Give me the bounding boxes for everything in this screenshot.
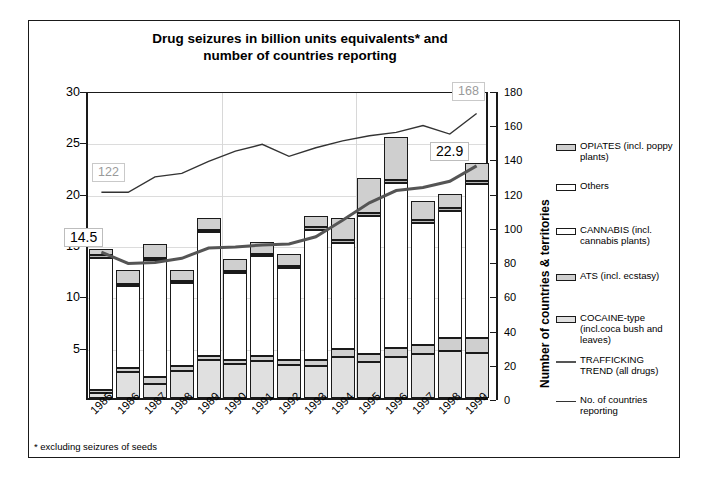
y-axis-right-tick bbox=[490, 332, 496, 333]
legend-swatch-bar-icon bbox=[556, 228, 576, 235]
legend-label: ATS (incl. ecstasy) bbox=[580, 270, 678, 281]
legend-swatch-line-icon bbox=[556, 361, 576, 363]
legend-swatch bbox=[556, 398, 576, 402]
y-axis-right-tick-label: 0 bbox=[504, 394, 510, 406]
y-axis-right-tick bbox=[490, 126, 496, 127]
y-axis-right-tick-label: 160 bbox=[504, 120, 522, 132]
legend-swatch-line-icon bbox=[556, 401, 576, 402]
y-axis-left-tick-label: 20 bbox=[46, 188, 80, 202]
annotation-countries-start: 122 bbox=[92, 163, 125, 182]
legend-label: Others bbox=[580, 180, 678, 191]
footnote: * excluding seizures of seeds bbox=[34, 441, 157, 452]
y-axis-right-tick bbox=[490, 366, 496, 367]
y-axis-left-tick bbox=[80, 349, 86, 350]
y-axis-right-tick bbox=[490, 195, 496, 196]
y-axis-right-tick-label: 100 bbox=[504, 223, 522, 235]
annotation-seizures-start: 14.5 bbox=[64, 228, 103, 247]
legend-swatch-bar-icon bbox=[556, 316, 576, 323]
y-axis-right-tick bbox=[490, 263, 496, 264]
legend-label: CANNABIS (incl. cannabis plants) bbox=[580, 224, 678, 246]
legend-swatch-bar-icon bbox=[556, 274, 576, 281]
legend-swatch bbox=[556, 228, 576, 235]
y-axis-right-tick-label: 140 bbox=[504, 154, 522, 166]
y-axis-left-tick-label: 30 bbox=[46, 85, 80, 99]
countries-reporting-line bbox=[101, 114, 476, 193]
legend-label: No. of countries reporting bbox=[580, 394, 678, 416]
chart-figure: Drug seizures in billion units equivalen… bbox=[0, 0, 708, 484]
y-axis-right-tick bbox=[490, 229, 496, 230]
legend-swatch bbox=[556, 184, 576, 191]
y-axis-right-title: Number of countries & territories bbox=[538, 199, 552, 388]
legend-swatch bbox=[556, 144, 576, 151]
legend-swatch bbox=[556, 316, 576, 323]
annotation-countries-end: 168 bbox=[452, 82, 485, 101]
y-axis-right-tick-label: 40 bbox=[504, 326, 516, 338]
y-axis-left-tick bbox=[80, 297, 86, 298]
y-axis-right-tick bbox=[490, 160, 496, 161]
legend-label: COCAINE-type (incl.coca bush and leaves) bbox=[580, 312, 678, 345]
title-line-2: number of countries reporting bbox=[203, 48, 397, 63]
y-axis-right-tick bbox=[490, 297, 496, 298]
legend-swatch-bar-icon bbox=[556, 184, 576, 191]
y-axis-left-tick bbox=[80, 195, 86, 196]
y-axis-right-tick bbox=[490, 400, 496, 401]
y-axis-right-tick-label: 180 bbox=[504, 86, 522, 98]
legend-swatch bbox=[556, 274, 576, 281]
y-axis-left-tick bbox=[80, 92, 86, 93]
y-axis-right-tick-label: 80 bbox=[504, 257, 516, 269]
title-line-1: Drug seizures in billion units equivalen… bbox=[152, 31, 448, 46]
y-axis-left-tick bbox=[80, 143, 86, 144]
y-axis-right-tick-label: 60 bbox=[504, 291, 516, 303]
y-axis-right-tick bbox=[490, 92, 496, 93]
y-axis-right-tick-label: 120 bbox=[504, 189, 522, 201]
legend-swatch bbox=[556, 358, 576, 363]
legend-swatch-bar-icon bbox=[556, 144, 576, 151]
trend-lines bbox=[88, 93, 490, 401]
y-axis-right-tick-label: 20 bbox=[504, 360, 516, 372]
annotation-seizures-end: 22.9 bbox=[430, 142, 469, 161]
page-title: Drug seizures in billion units equivalen… bbox=[90, 30, 510, 64]
plot-area bbox=[86, 92, 488, 400]
y-axis-right-line bbox=[496, 92, 498, 400]
trafficking-trend-line bbox=[101, 166, 476, 264]
y-axis-left-tick-label: 25 bbox=[46, 136, 80, 150]
legend-label: OPIATES (incl. poppy plants) bbox=[580, 140, 678, 162]
y-axis-left-tick-label: 10 bbox=[46, 290, 80, 304]
legend-label: TRAFFICKING TREND (all drugs) bbox=[580, 354, 678, 376]
y-axis-left-tick-label: 5 bbox=[46, 342, 80, 356]
